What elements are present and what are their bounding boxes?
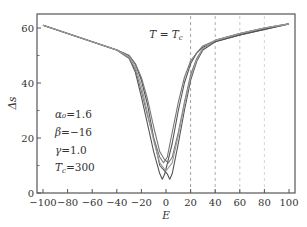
parameter-1: β=−16 — [54, 126, 92, 138]
x-tick-label: −40 — [106, 197, 127, 208]
x-tick-label: 0 — [163, 197, 169, 208]
x-axis-label: E — [161, 209, 170, 221]
curve-3 — [43, 24, 289, 163]
x-tick-label: −80 — [57, 197, 78, 208]
x-axis-ticks: −100−80−60−40−20020406080100 — [29, 189, 298, 208]
x-tick-label: 100 — [279, 197, 298, 208]
x-tick-label: 80 — [258, 197, 271, 208]
parameter-2: γ=1.0 — [55, 144, 87, 156]
x-tick-label: 40 — [209, 197, 222, 208]
y-axis-ticks: 0204060 — [21, 23, 41, 199]
x-tick-label: −60 — [82, 197, 103, 208]
dashed-reference-lines — [191, 16, 265, 193]
y-tick-label: 0 — [28, 188, 34, 199]
parameter-0: α₀=1.6 — [55, 108, 92, 120]
x-tick-label: 20 — [184, 197, 197, 208]
y-axis-label: Δs — [6, 96, 18, 111]
curve-4 — [43, 24, 289, 163]
chart: −100−80−60−40−20020406080100 0204060 E Δ… — [0, 0, 307, 227]
x-tick-label: −20 — [131, 197, 152, 208]
parameter-annotations: α₀=1.6β=−16γ=1.0Tc=300 — [54, 108, 95, 175]
y-tick-label: 20 — [21, 133, 34, 144]
y-tick-label: 60 — [21, 23, 34, 34]
parameter-3: Tc=300 — [55, 161, 95, 175]
condition-annotation: T = Tc — [149, 28, 183, 42]
x-tick-label: −100 — [29, 197, 56, 208]
y-tick-label: 40 — [21, 78, 34, 89]
x-tick-label: 60 — [233, 197, 246, 208]
